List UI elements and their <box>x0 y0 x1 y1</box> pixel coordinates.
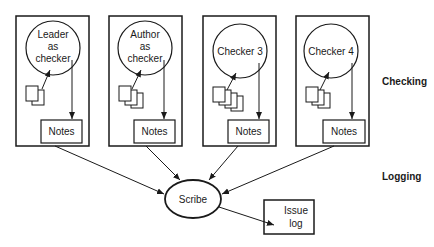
checker-panel-4: Checker 4 Notes <box>296 16 369 146</box>
checker-label-line: as <box>140 41 151 52</box>
checker-label-line: checker <box>35 53 71 64</box>
phase-label-logging: Logging <box>382 171 421 182</box>
checker-label-line: Author <box>130 29 160 40</box>
arrow-notes1-to-scribe <box>55 146 164 194</box>
documents-icon <box>306 87 330 108</box>
arrow-notes2-to-scribe <box>146 146 180 180</box>
documents-icon <box>213 87 243 111</box>
checker-label-line: checker <box>127 53 163 64</box>
documents-icon <box>119 86 143 108</box>
notes-label: Notes <box>235 126 261 137</box>
notes-label: Notes <box>48 126 74 137</box>
checker-label-line: Checker 3 <box>217 46 263 57</box>
arrow-notes3-to-scribe <box>209 146 238 180</box>
checker-label-line: as <box>48 41 59 52</box>
arrow-notes4-to-scribe <box>222 146 334 194</box>
arrow-scribe-to-issue-log <box>219 207 274 225</box>
inspection-diagram: Leader as checker Notes Author as checke… <box>0 0 434 247</box>
checker-panel-leader: Leader as checker Notes <box>16 16 89 146</box>
scribe-label: Scribe <box>179 194 208 205</box>
checker-panel-author: Author as checker Notes <box>109 16 182 146</box>
checker-panel-3: Checker 3 Notes <box>203 16 276 146</box>
phase-label-checking: Checking <box>382 76 427 87</box>
issue-log-label-line: log <box>289 218 302 229</box>
notes-label: Notes <box>141 126 167 137</box>
checker-label-line: Leader <box>37 29 69 40</box>
checker-label-line: Checker 4 <box>308 46 354 57</box>
documents-icon <box>26 86 44 105</box>
notes-label: Notes <box>331 126 357 137</box>
issue-log-label-line: Issue <box>284 205 308 216</box>
